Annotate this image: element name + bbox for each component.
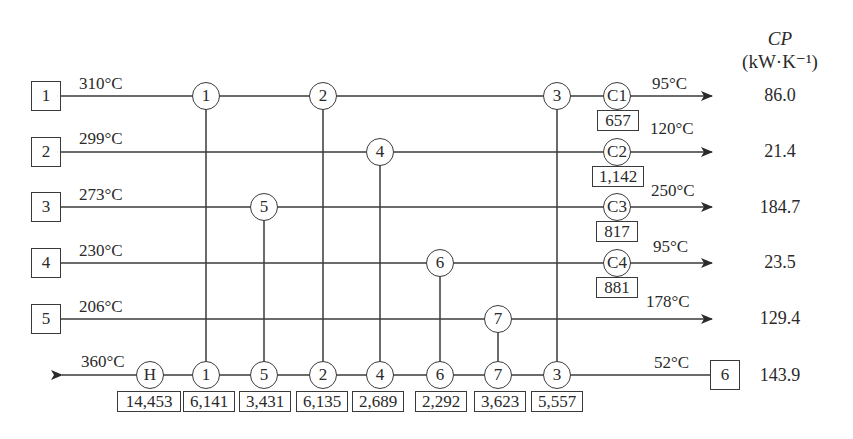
stream-id: 5 bbox=[42, 309, 51, 329]
exchanger-label: 6 bbox=[436, 253, 445, 273]
stream-box-6: 6 bbox=[710, 360, 740, 390]
exchanger-label: 4 bbox=[376, 365, 385, 385]
exchanger-1-cold: 1 bbox=[192, 361, 220, 389]
exchanger-6-cold: 6 bbox=[426, 361, 454, 389]
cooler-duty-c3: 817 bbox=[596, 221, 638, 242]
target-temp-6: 360°C bbox=[81, 353, 125, 370]
exchanger-label: 2 bbox=[319, 365, 328, 385]
cp-unit: (kW·K⁻¹) bbox=[725, 50, 835, 73]
exchanger-label: 3 bbox=[553, 365, 562, 385]
supply-temp-5: 206°C bbox=[79, 298, 123, 315]
exchanger-7-cold: 7 bbox=[484, 361, 512, 389]
exchanger-5-cold: 5 bbox=[250, 361, 278, 389]
cooler-label: C2 bbox=[607, 142, 627, 162]
exchanger-duty-3: 5,557 bbox=[531, 391, 583, 412]
cooler-c3: C3 bbox=[603, 193, 631, 221]
exchanger-3-hot: 3 bbox=[543, 82, 571, 110]
cooler-label: C4 bbox=[607, 253, 627, 273]
exchanger-label: 5 bbox=[260, 197, 269, 217]
exchanger-duty-2: 6,135 bbox=[296, 391, 348, 412]
exchanger-label: 6 bbox=[436, 365, 445, 385]
exchanger-7-hot: 7 bbox=[484, 305, 512, 333]
exchanger-2-hot: 2 bbox=[309, 82, 337, 110]
cp-header: CP bbox=[725, 28, 835, 50]
exchanger-label: 4 bbox=[376, 142, 385, 162]
target-temp-3: 250°C bbox=[651, 182, 695, 199]
cp-value-5: 129.4 bbox=[740, 308, 820, 329]
exchanger-1-hot: 1 bbox=[192, 82, 220, 110]
exchanger-label: 7 bbox=[494, 365, 503, 385]
supply-temp-6: 52°C bbox=[654, 354, 689, 371]
exchanger-label: 1 bbox=[202, 365, 211, 385]
stream-id: 6 bbox=[721, 365, 730, 385]
cooler-label: C3 bbox=[607, 197, 627, 217]
target-temp-1: 95°C bbox=[652, 75, 687, 92]
stream-id: 3 bbox=[42, 197, 51, 217]
exchanger-3-cold: 3 bbox=[543, 361, 571, 389]
supply-temp-3: 273°C bbox=[79, 186, 123, 203]
stream-box-5: 5 bbox=[31, 304, 61, 334]
cooler-duty-c4: 881 bbox=[596, 277, 638, 298]
heater-duty: 14,453 bbox=[117, 391, 181, 412]
exchanger-label: 2 bbox=[319, 86, 328, 106]
supply-temp-1: 310°C bbox=[79, 75, 123, 92]
exchanger-duty-5: 3,431 bbox=[239, 391, 291, 412]
exchanger-label: 7 bbox=[494, 309, 503, 329]
cooler-c1: C1 bbox=[603, 82, 631, 110]
exchanger-duty-1: 6,141 bbox=[183, 391, 235, 412]
cooler-c2: C2 bbox=[603, 138, 631, 166]
target-temp-2: 120°C bbox=[650, 120, 694, 137]
exchanger-5-hot: 5 bbox=[250, 193, 278, 221]
cp-value-3: 184.7 bbox=[740, 197, 820, 218]
heater-h: H bbox=[136, 361, 164, 389]
cooler-duty-c1: 657 bbox=[597, 110, 639, 131]
exchanger-duty-4: 2,689 bbox=[352, 391, 404, 412]
cp-value-2: 21.4 bbox=[740, 141, 820, 162]
exchanger-duty-6: 2,292 bbox=[415, 391, 467, 412]
target-temp-5: 178°C bbox=[646, 293, 690, 310]
exchanger-label: 3 bbox=[553, 86, 562, 106]
exchanger-label: 5 bbox=[260, 365, 269, 385]
cooler-c4: C4 bbox=[603, 249, 631, 277]
cooler-label: C1 bbox=[607, 86, 627, 106]
stream-id: 2 bbox=[42, 142, 51, 162]
stream-box-3: 3 bbox=[31, 192, 61, 222]
stream-id: 4 bbox=[42, 253, 51, 273]
stream-box-1: 1 bbox=[31, 81, 61, 111]
supply-temp-2: 299°C bbox=[79, 130, 123, 147]
exchanger-duty-7: 3,623 bbox=[474, 391, 526, 412]
stream-id: 1 bbox=[42, 86, 51, 106]
cp-value-1: 86.0 bbox=[740, 85, 820, 106]
stream-box-2: 2 bbox=[31, 137, 61, 167]
cp-value-4: 23.5 bbox=[740, 252, 820, 273]
heater-label: H bbox=[144, 365, 156, 385]
exchanger-4-cold: 4 bbox=[366, 361, 394, 389]
exchanger-2-cold: 2 bbox=[309, 361, 337, 389]
stream-box-4: 4 bbox=[31, 248, 61, 278]
exchanger-6-hot: 6 bbox=[426, 249, 454, 277]
cooler-duty-c2: 1,142 bbox=[592, 166, 644, 187]
exchanger-4-hot: 4 bbox=[366, 138, 394, 166]
supply-temp-4: 230°C bbox=[79, 242, 123, 259]
cp-value-6: 143.9 bbox=[740, 365, 820, 386]
exchanger-label: 1 bbox=[202, 86, 211, 106]
target-temp-4: 95°C bbox=[653, 238, 688, 255]
